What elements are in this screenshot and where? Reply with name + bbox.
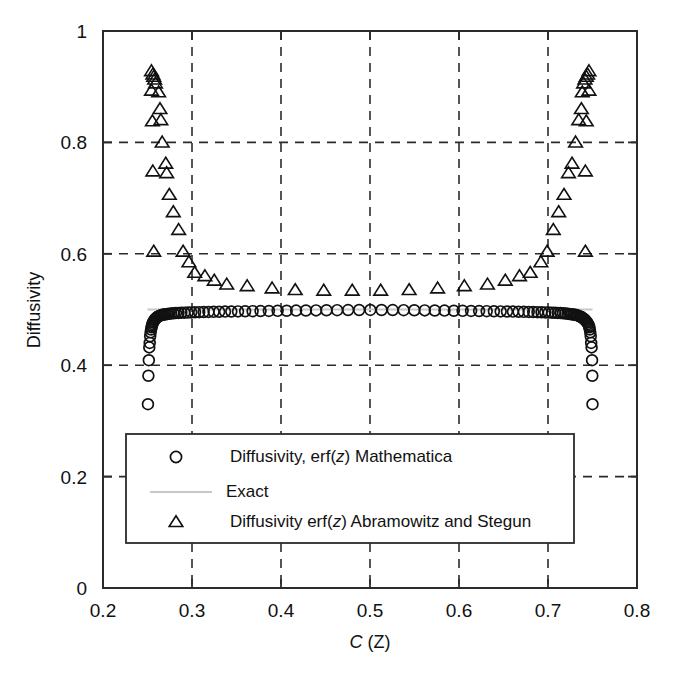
- data-point-triangle: [575, 103, 589, 114]
- x-axis-title-variable: C: [350, 632, 364, 652]
- data-point-triangle: [154, 114, 168, 125]
- data-point-triangle: [345, 284, 359, 295]
- data-point-triangle: [188, 266, 202, 277]
- data-point-triangle: [172, 224, 186, 235]
- legend-label-suffix: ) Mathematica: [345, 447, 453, 466]
- y-axis-title: Diffusivity: [24, 272, 44, 349]
- data-point-triangle: [481, 278, 495, 289]
- data-point-circle: [143, 355, 154, 366]
- chart-figure: 0.20.30.40.50.60.70.8 00.20.40.60.81 Dif…: [0, 0, 682, 679]
- legend-label-prefix: Diffusivity erf(: [230, 512, 333, 531]
- y-tick-label: 0: [76, 578, 87, 599]
- x-tick-label: 0.5: [357, 600, 383, 621]
- data-point-triangle: [498, 274, 512, 285]
- data-point-triangle: [155, 136, 169, 147]
- y-tick-label: 0.6: [61, 244, 87, 265]
- data-point-triangle: [431, 282, 445, 293]
- legend-label-prefix: Exact: [226, 482, 269, 501]
- data-point-triangle: [374, 284, 388, 295]
- data-point-triangle: [402, 284, 416, 295]
- y-axis-tick-labels: 00.20.40.60.81: [61, 21, 88, 599]
- data-point-circle: [143, 399, 154, 410]
- data-point-triangle: [565, 157, 579, 168]
- legend-label-prefix: Diffusivity, erf(: [230, 447, 336, 466]
- legend-label-variable: z: [335, 447, 345, 466]
- data-point-triangle: [569, 136, 583, 147]
- data-point-triangle: [317, 284, 331, 295]
- data-point-circle: [587, 399, 598, 410]
- data-point-triangle: [146, 165, 160, 176]
- data-point-triangle: [579, 165, 593, 176]
- legend-label-variable: z: [332, 512, 342, 531]
- legend-entry-label: Diffusivity erf(z) Abramowitz and Stegun: [230, 512, 531, 531]
- x-axis-title: C (Z): [350, 632, 391, 652]
- x-tick-label: 0.8: [624, 600, 650, 621]
- data-point-triangle: [166, 206, 180, 217]
- legend: Diffusivity, erf(z) MathematicaExactDiff…: [126, 434, 574, 543]
- data-point-circle: [587, 355, 598, 366]
- y-tick-label: 0.4: [61, 355, 88, 376]
- legend-entry-label: Diffusivity, erf(z) Mathematica: [230, 447, 453, 466]
- data-point-triangle: [153, 103, 167, 114]
- data-point-triangle: [265, 282, 279, 293]
- data-point-triangle: [288, 284, 302, 295]
- y-tick-label: 0.8: [61, 132, 87, 153]
- data-point-triangle: [552, 206, 566, 217]
- data-point-circle: [143, 370, 154, 381]
- y-tick-label: 1: [76, 21, 87, 42]
- data-point-circle: [587, 370, 598, 381]
- data-point-triangle: [182, 256, 196, 267]
- data-point-triangle: [162, 188, 176, 199]
- data-point-triangle: [159, 157, 173, 168]
- data-point-triangle: [220, 278, 234, 289]
- x-tick-label: 0.2: [90, 600, 116, 621]
- legend-entry-label: Exact: [226, 482, 269, 501]
- y-tick-label: 0.2: [61, 467, 87, 488]
- data-point-triangle: [523, 266, 537, 277]
- scatter-plot-canvas: 0.20.30.40.50.60.70.8 00.20.40.60.81 Dif…: [0, 0, 682, 679]
- x-tick-label: 0.7: [535, 600, 561, 621]
- x-tick-label: 0.6: [446, 600, 472, 621]
- x-axis-tick-labels: 0.20.30.40.50.60.70.8: [90, 600, 650, 621]
- data-point-triangle: [240, 280, 254, 291]
- x-axis-title-rest: (Z): [363, 632, 391, 652]
- x-tick-label: 0.3: [179, 600, 205, 621]
- data-point-triangle: [557, 188, 571, 199]
- data-point-triangle: [534, 256, 548, 267]
- legend-label-suffix: ) Abramowitz and Stegun: [341, 512, 531, 531]
- x-tick-label: 0.4: [268, 600, 295, 621]
